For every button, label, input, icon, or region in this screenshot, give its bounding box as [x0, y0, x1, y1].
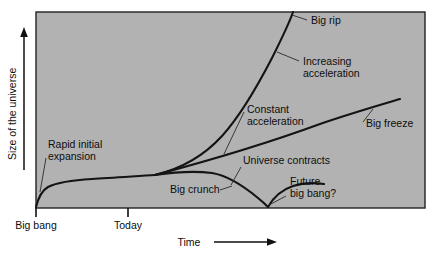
cosmology-fate-figure: Size of the universe Time Big bang Today: [0, 0, 444, 257]
figure-canvas: Size of the universe Time Big bang Today: [0, 0, 444, 257]
annotation-constant-acceleration-line1: Constant: [247, 103, 289, 115]
annotation-future-big-bang-line2: big bang?: [290, 187, 336, 199]
x-axis-right-arrow-icon: [267, 238, 277, 246]
x-tick-group: Big bang Today: [15, 208, 142, 231]
annotation-increasing-acceleration-line1: Increasing: [303, 55, 352, 67]
annotation-big-rip-line1: Big rip: [311, 14, 341, 26]
annotation-rapid-initial-expansion-line1: Rapid initial: [48, 138, 102, 150]
tick-label-today: Today: [114, 219, 143, 231]
annotation-big-crunch: Big crunch: [170, 183, 220, 195]
annotation-universe-contracts: Universe contracts: [243, 154, 330, 166]
annotation-universe-contracts-line1: Universe contracts: [243, 154, 330, 166]
y-axis-group: Size of the universe: [6, 27, 28, 170]
annotation-increasing-acceleration: Increasing acceleration: [303, 55, 360, 79]
annotation-big-rip: Big rip: [311, 14, 341, 26]
x-axis-group: Time: [178, 236, 277, 248]
annotation-increasing-acceleration-line2: acceleration: [303, 67, 360, 79]
annotation-big-crunch-line1: Big crunch: [170, 183, 220, 195]
annotation-rapid-initial-expansion-line2: expansion: [48, 150, 96, 162]
annotation-big-freeze-line1: Big freeze: [366, 117, 413, 129]
annotation-rapid-initial-expansion: Rapid initial expansion: [48, 138, 102, 162]
y-axis-label: Size of the universe: [6, 68, 18, 160]
y-axis-up-arrow-icon: [20, 27, 28, 37]
x-axis-label: Time: [178, 236, 201, 248]
annotation-constant-acceleration-line2: acceleration: [247, 115, 304, 127]
tick-label-big-bang: Big bang: [15, 219, 57, 231]
annotation-big-freeze: Big freeze: [366, 117, 413, 129]
annotation-future-big-bang-line1: Future: [290, 175, 321, 187]
